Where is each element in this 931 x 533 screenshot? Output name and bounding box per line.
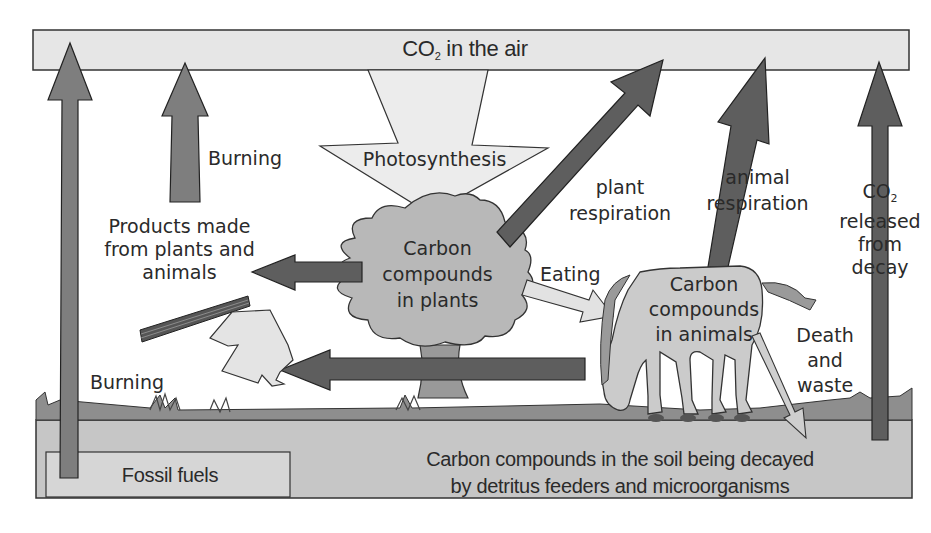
animals-line1: Carbon	[645, 272, 763, 297]
plant-respiration-line1: plant	[555, 175, 685, 199]
animal-respiration-label: animal respiration	[700, 165, 815, 215]
burning-bottom-label: Burning	[90, 370, 164, 394]
burning-arrow-top	[162, 63, 208, 202]
burning-top-label: Burning	[208, 146, 282, 170]
animal-respiration-arrow	[708, 58, 769, 267]
eating-label: Eating	[540, 262, 600, 286]
animals-line3: in animals	[645, 322, 763, 347]
plants-line1: Carbon	[375, 235, 500, 261]
photosynthesis-label: Photosynthesis	[352, 147, 517, 171]
plant-respiration-label: plant respiration	[555, 175, 685, 225]
decay-co: CO	[862, 180, 890, 202]
air-label-text: in the air	[441, 36, 528, 61]
soil-label: Carbon compounds in the soil being decay…	[380, 446, 860, 500]
death-waste-line2: and	[790, 348, 860, 373]
plants-line3: in plants	[375, 287, 500, 313]
plants-label: Carbon compounds in plants	[375, 235, 500, 313]
sweater	[210, 310, 293, 386]
fossil-fuels-label: Fossil fuels	[100, 463, 240, 487]
decay-release-line1: CO2	[835, 180, 925, 210]
animals-line2: compounds	[645, 297, 763, 322]
air-label-co: CO	[402, 36, 434, 61]
products-line3: animals	[97, 261, 262, 284]
products-label: Products made from plants and animals	[97, 215, 262, 284]
photosynthesis-arrow	[320, 70, 548, 214]
animal-respiration-line1: animal	[700, 165, 815, 189]
eating-arrow	[522, 280, 613, 322]
decay-release-line2: released	[835, 210, 925, 233]
death-waste-label: Death and waste	[790, 323, 860, 398]
products-line1: Products made	[97, 215, 262, 238]
soil-line1: Carbon compounds in the soil being decay…	[380, 446, 860, 473]
death-waste-line3: waste	[790, 373, 860, 398]
decay-release-label: CO2 released from decay	[835, 180, 925, 279]
animal-respiration-line2: respiration	[700, 191, 815, 215]
air-label: CO2 in the air	[330, 37, 600, 68]
soil-line2: by detritus feeders and microorganisms	[380, 473, 860, 500]
decay-release-line3: from	[835, 233, 925, 256]
products-line2: from plants and	[97, 238, 262, 261]
decay-sub: 2	[891, 192, 898, 205]
plants-line2: compounds	[375, 261, 500, 287]
death-waste-line1: Death	[790, 323, 860, 348]
plant-respiration-line2: respiration	[555, 201, 685, 225]
animals-label: Carbon compounds in animals	[645, 272, 763, 347]
decay-release-line4: decay	[835, 256, 925, 279]
